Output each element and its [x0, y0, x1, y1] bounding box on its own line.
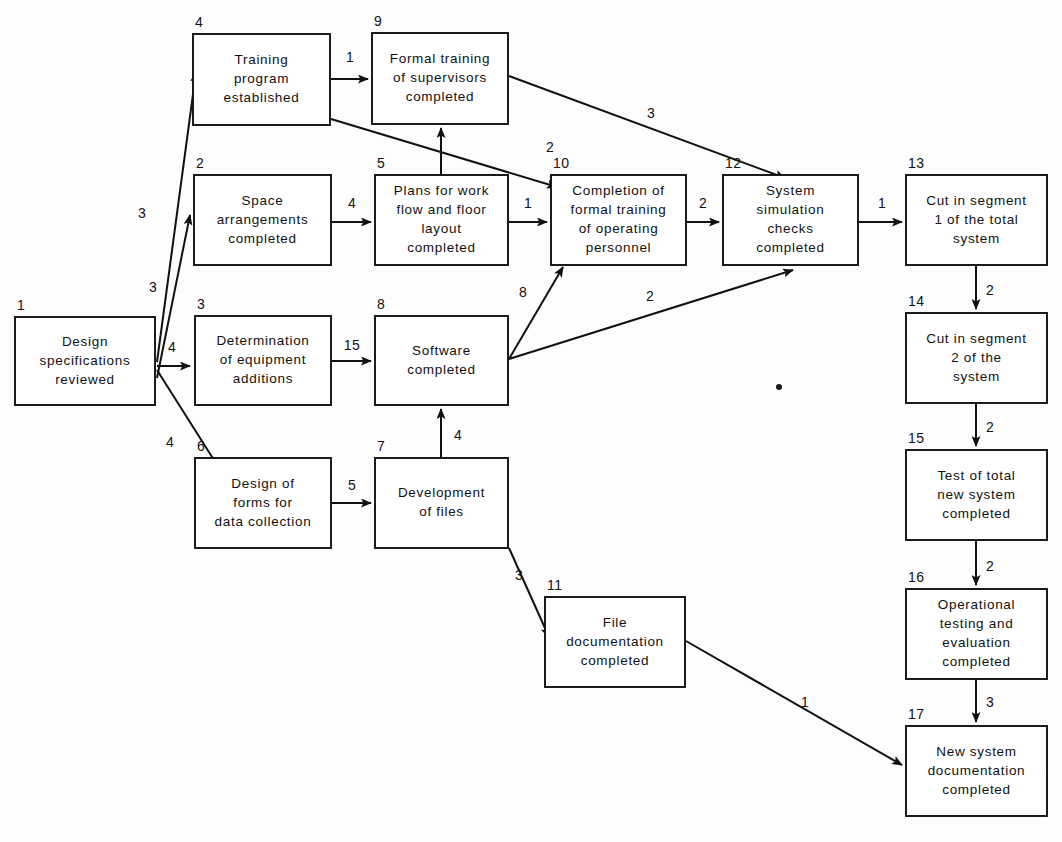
node-box[interactable] [375, 316, 508, 405]
edge-duration-label: 5 [348, 477, 356, 493]
node-label-line: Cut in segment [926, 331, 1027, 346]
edge-8-to-12: 2 [509, 270, 793, 359]
edge-11-to-17: 1 [686, 641, 902, 765]
node-label-line: of equipment [220, 352, 306, 367]
node-12[interactable]: 12Systemsimulationcheckscompleted [723, 155, 858, 265]
node-number: 10 [553, 155, 569, 171]
diagram-canvas: 33441241321158254312223 1Designspecifica… [0, 0, 1062, 842]
node-label-line: completed [581, 653, 650, 668]
edge-duration-label: 2 [986, 558, 994, 574]
edge-5-to-10: 1 [509, 195, 547, 222]
edge-duration-label: 1 [524, 195, 532, 211]
edge-9-to-12: 3 [509, 76, 785, 178]
node-label-line: Completion of [572, 183, 664, 198]
node-label-line: new system [937, 487, 1015, 502]
node-number: 7 [377, 438, 385, 454]
node-label-line: Determination [216, 333, 309, 348]
node-label-line: Space [242, 193, 284, 208]
node-label-line: Design [62, 334, 108, 349]
edge-duration-label: 2 [646, 288, 654, 304]
node-number: 2 [196, 155, 204, 171]
node-label-line: 2 of the [951, 350, 1002, 365]
node-2[interactable]: 2Spacearrangementscompleted [194, 155, 331, 265]
node-number: 16 [908, 569, 924, 585]
node-box[interactable] [375, 458, 508, 548]
node-14[interactable]: 14Cut in segment2 of thesystem [906, 293, 1047, 403]
edge-duration-label: 4 [168, 339, 176, 355]
node-label-line: reviewed [55, 372, 115, 387]
node-label-line: Design of [231, 476, 294, 491]
node-number: 5 [377, 155, 385, 171]
node-8[interactable]: 8Softwarecompleted [375, 296, 508, 405]
node-label-line: evaluation [942, 635, 1011, 650]
edge-duration-label: 2 [546, 139, 554, 155]
edge-duration-label: 3 [515, 567, 523, 583]
node-label-line: Training [235, 52, 289, 67]
node-4[interactable]: 4Trainingprogramestablished [193, 14, 330, 125]
edge-duration-label: 4 [166, 434, 174, 450]
node-label-line: flow and floor [396, 202, 486, 217]
node-10[interactable]: 10Completion offormal trainingof operati… [551, 155, 686, 265]
node-label-line: Plans for work [394, 183, 489, 198]
edge-duration-label: 2 [986, 419, 994, 435]
edge-14-to-15: 2 [976, 403, 994, 446]
node-number: 12 [725, 155, 741, 171]
node-13[interactable]: 13Cut in segment1 of the totalsystem [906, 155, 1047, 265]
node-label-line: completed [942, 654, 1011, 669]
node-label-line: Operational [938, 597, 1016, 612]
edge-line [509, 548, 549, 637]
node-number: 11 [547, 577, 562, 593]
node-label-line: Software [412, 343, 471, 358]
node-label-line: documentation [566, 634, 664, 649]
edge-15-to-16: 2 [976, 540, 994, 585]
node-label-line: program [234, 71, 289, 86]
node-label-line: system [953, 369, 1000, 384]
edge-7-to-11: 3 [509, 548, 549, 637]
node-label-line: testing and [940, 616, 1014, 631]
edge-duration-label: 1 [878, 195, 886, 211]
node-9[interactable]: 9Formal trainingof supervisorscompleted [372, 13, 508, 124]
edge-7-to-8: 4 [441, 409, 462, 458]
node-label-line: of supervisors [393, 70, 487, 85]
node-label-line: documentation [928, 763, 1026, 778]
node-label-line: System [766, 183, 815, 198]
node-6[interactable]: 6Design offorms fordata collection [195, 438, 331, 548]
node-number: 14 [908, 293, 924, 309]
edge-4-to-9: 1 [331, 49, 368, 79]
edge-duration-label: 1 [346, 49, 354, 65]
node-label-line: personnel [586, 240, 652, 255]
node-number: 15 [908, 430, 924, 446]
node-16[interactable]: 16Operationaltesting andevaluationcomple… [906, 569, 1047, 679]
edge-duration-label: 15 [344, 337, 360, 353]
node-15[interactable]: 15Test of totalnew systemcompleted [906, 430, 1047, 540]
edge-duration-label: 2 [986, 282, 994, 298]
node-label-line: forms for [233, 495, 293, 510]
edge-duration-label: 4 [348, 195, 356, 211]
node-number: 4 [195, 14, 203, 30]
edge-16-to-17: 3 [976, 679, 994, 722]
marks-layer [776, 384, 782, 390]
node-number: 8 [377, 296, 385, 312]
node-1[interactable]: 1Designspecificationsreviewed [15, 297, 155, 405]
node-17[interactable]: 17New systemdocumentationcompleted [906, 706, 1047, 816]
node-label-line: Test of total [937, 468, 1015, 483]
edge-line [509, 76, 785, 178]
node-label-line: specifications [40, 353, 131, 368]
network-diagram: 33441241321158254312223 1Designspecifica… [0, 0, 1062, 842]
node-label-line: of operating [579, 221, 659, 236]
edge-2-to-5: 4 [332, 195, 371, 222]
node-label-line: Formal training [390, 51, 491, 66]
edge-duration-label: 3 [647, 105, 655, 121]
nodes-layer: 1Designspecificationsreviewed4Trainingpr… [15, 13, 1047, 816]
node-label-line: completed [942, 506, 1011, 521]
edge-duration-label: 3 [986, 694, 994, 710]
node-label-line: completed [228, 231, 297, 246]
node-label-line: completed [407, 362, 476, 377]
node-label-line: established [224, 90, 300, 105]
node-3[interactable]: 3Determinationof equipmentadditions [195, 296, 331, 405]
edge-3-to-8: 15 [332, 337, 371, 361]
node-label-line: formal training [570, 202, 666, 217]
node-11[interactable]: 11Filedocumentationcompleted [545, 577, 685, 687]
edge-duration-label: 2 [699, 195, 707, 211]
edge-10-to-12: 2 [687, 195, 719, 222]
